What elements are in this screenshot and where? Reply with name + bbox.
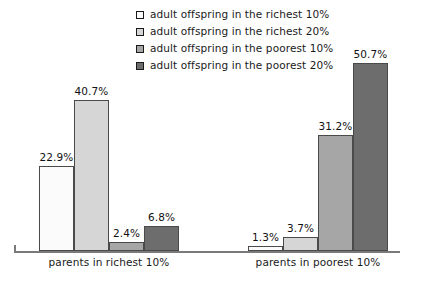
bar bbox=[109, 242, 144, 251]
bar-value-label: 50.7% bbox=[343, 48, 398, 60]
bar bbox=[248, 246, 283, 251]
y-axis-origin-tick bbox=[14, 245, 16, 252]
x-axis-group-label: parents in richest 10% bbox=[0, 256, 219, 268]
x-axis-group-label: parents in poorest 10% bbox=[208, 256, 428, 268]
bar-value-label: 40.7% bbox=[64, 85, 119, 97]
bar-value-label: 6.8% bbox=[134, 211, 189, 223]
bar bbox=[353, 63, 388, 251]
bar-chart-figure: adult offspring in the richest 10% adult… bbox=[0, 0, 437, 286]
bar bbox=[283, 237, 318, 251]
bar bbox=[318, 135, 353, 251]
plot-area: 22.9%40.7%2.4%6.8%parents in richest 10%… bbox=[0, 0, 437, 286]
bar bbox=[144, 226, 179, 251]
x-axis-line bbox=[14, 251, 400, 253]
bar bbox=[39, 166, 74, 251]
